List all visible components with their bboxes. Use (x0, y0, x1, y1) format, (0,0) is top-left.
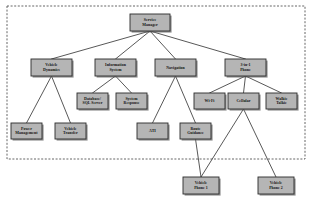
node-box[interactable] (180, 123, 211, 139)
hierarchy-diagram: ServiceManagerVehicleDynamicsInformation… (0, 0, 311, 202)
node-power-management[interactable]: PowerManagement (11, 123, 44, 141)
node-vehicle-phone-2[interactable]: VehiclePhone 2 (258, 177, 296, 196)
node-layer: ServiceManagerVehicleDynamicsInformation… (11, 14, 299, 196)
node-vehicle-transfer[interactable]: VehicleTransfer (55, 123, 88, 141)
edge-three-in-one-phone-to-wifi (210, 76, 246, 93)
node-box[interactable] (194, 93, 225, 109)
node-box[interactable] (31, 59, 72, 76)
edge-cellular-to-vehicle-phone-1 (201, 109, 244, 177)
edge-vehicle-dynamics-to-vehicle-transfer (52, 76, 71, 123)
edge-navigation-to-ati (153, 76, 176, 123)
edge-cellular-to-vehicle-phone-2 (244, 109, 277, 177)
node-box[interactable] (225, 59, 266, 76)
node-box[interactable] (258, 177, 294, 194)
node-vehicle-dynamics[interactable]: VehicleDynamics (31, 59, 74, 78)
edge-three-in-one-phone-to-cellular (244, 76, 246, 93)
node-box[interactable] (155, 59, 196, 76)
edge-information-system-to-database-sql-server (93, 76, 116, 93)
edge-service-manager-to-vehicle-dynamics (52, 31, 151, 59)
node-vehicle-phone-1[interactable]: VehiclePhone 1 (183, 177, 221, 196)
node-cellular[interactable]: Cellular (228, 93, 261, 111)
edge-vehicle-dynamics-to-power-management (27, 76, 52, 123)
node-box[interactable] (130, 14, 170, 31)
edge-service-manager-to-three-in-one-phone (150, 31, 246, 59)
node-system-response[interactable]: SystemResponse (116, 93, 149, 111)
node-wifi[interactable]: Wi-Fi (194, 93, 227, 111)
node-information-system[interactable]: InformationSystem (95, 59, 138, 78)
node-box[interactable] (11, 123, 42, 139)
node-box[interactable] (137, 123, 168, 139)
node-box[interactable] (95, 59, 136, 76)
edge-information-system-to-system-response (116, 76, 132, 93)
node-route-guidance[interactable]: RouteGuidance (180, 123, 213, 141)
edge-navigation-to-route-guidance (176, 76, 196, 123)
edge-three-in-one-phone-to-walkie-talkie (246, 76, 282, 93)
node-walkie-talkie[interactable]: WalkieTalkie (266, 93, 299, 111)
node-box[interactable] (183, 177, 219, 194)
node-box[interactable] (55, 123, 86, 139)
node-navigation[interactable]: Navigation (155, 59, 198, 78)
node-database-sql-server[interactable]: Database/SQL Server (77, 93, 110, 111)
node-box[interactable] (266, 93, 297, 109)
edge-service-manager-to-navigation (150, 31, 176, 59)
node-box[interactable] (77, 93, 108, 109)
node-box[interactable] (116, 93, 147, 109)
edge-service-manager-to-information-system (116, 31, 151, 59)
node-service-manager[interactable]: ServiceManager (130, 14, 172, 33)
diagram-canvas: ServiceManagerVehicleDynamicsInformation… (0, 0, 311, 202)
node-box[interactable] (228, 93, 259, 109)
edge-route-guidance-to-vehicle-phone-1 (196, 139, 202, 177)
node-three-in-one-phone[interactable]: 3-in-1Phone (225, 59, 268, 78)
node-ati[interactable]: ATI (137, 123, 170, 141)
